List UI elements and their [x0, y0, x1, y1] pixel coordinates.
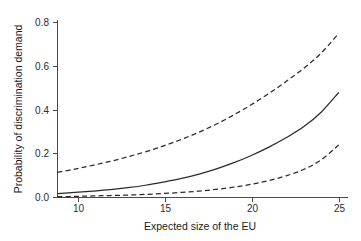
- y-tick-label-2: 0.4: [35, 105, 49, 116]
- y-tick-marks: [53, 23, 58, 198]
- y-tick-labels: 0.8 0.6 0.4 0.2 0.0: [35, 17, 49, 203]
- x-tick-labels: 10 15 20 25: [73, 203, 346, 214]
- upper-confidence-curve: [58, 33, 339, 172]
- x-tick-marks: [79, 198, 340, 203]
- chart-plot-area: 0.8 0.6 0.4 0.2 0.0 10 15 20 25 Expected…: [0, 0, 361, 241]
- y-axis-title: Probability of discrimination demand: [12, 25, 24, 194]
- x-tick-label-0: 10: [73, 203, 85, 214]
- lower-confidence-curve: [58, 145, 339, 197]
- y-tick-label-3: 0.6: [35, 61, 49, 72]
- x-tick-label-3: 25: [334, 203, 346, 214]
- x-axis-title: Expected size of the EU: [144, 220, 256, 232]
- y-tick-label-1: 0.2: [35, 148, 49, 159]
- y-tick-label-0: 0.0: [35, 192, 49, 203]
- y-tick-label-4: 0.8: [35, 17, 49, 28]
- chart-figure: 0.8 0.6 0.4 0.2 0.0 10 15 20 25 Expected…: [0, 0, 361, 241]
- predicted-probability-curve: [58, 93, 339, 194]
- x-tick-label-2: 20: [247, 203, 259, 214]
- x-tick-label-1: 15: [160, 203, 172, 214]
